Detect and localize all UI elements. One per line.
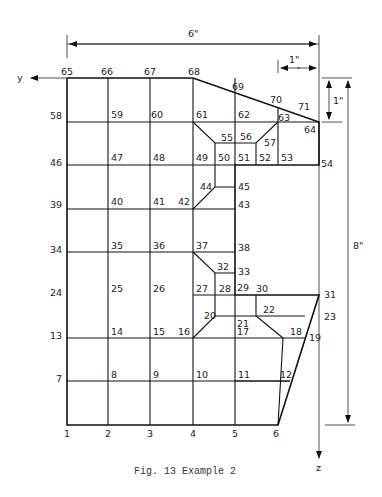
node-label: 7 bbox=[56, 373, 62, 384]
node-label: 11 bbox=[238, 369, 250, 380]
node-label: 21 bbox=[237, 318, 249, 329]
node-label: 37 bbox=[196, 240, 208, 251]
node-label: 42 bbox=[178, 196, 190, 207]
node-label: 41 bbox=[153, 196, 165, 207]
node-label: 55 bbox=[221, 132, 233, 143]
node-label: 56 bbox=[240, 131, 252, 142]
dimension-label-top-offset: 1" bbox=[333, 95, 343, 106]
node-label: 26 bbox=[153, 283, 165, 294]
node-label: 63 bbox=[278, 112, 290, 123]
node-label: 53 bbox=[281, 152, 293, 163]
dimension-right-offset-1in: 1" bbox=[278, 54, 316, 73]
node-label: 36 bbox=[153, 240, 165, 251]
node-label: 5 bbox=[232, 428, 238, 439]
node-label: 16 bbox=[178, 326, 190, 337]
node-label: 4 bbox=[190, 428, 196, 439]
node-label: 34 bbox=[50, 244, 62, 255]
node-label: 71 bbox=[298, 101, 310, 112]
node-label: 18 bbox=[290, 326, 302, 337]
node-label: 47 bbox=[111, 152, 123, 163]
node-label: 29 bbox=[237, 282, 249, 293]
node-label: 43 bbox=[238, 199, 250, 210]
node-label: 35 bbox=[111, 240, 123, 251]
node-label: 24 bbox=[50, 287, 62, 298]
y-axis: y bbox=[17, 72, 67, 83]
node-label: 12 bbox=[280, 369, 292, 380]
node-label: 13 bbox=[50, 330, 62, 341]
node-label: 48 bbox=[153, 152, 165, 163]
node-label: 65 bbox=[61, 66, 73, 77]
node-label: 49 bbox=[196, 152, 208, 163]
node-label: 15 bbox=[153, 326, 165, 337]
node-label: 46 bbox=[50, 157, 62, 168]
node-label: 69 bbox=[232, 81, 244, 92]
node-label: 33 bbox=[238, 266, 250, 277]
dimension-label-width: 6" bbox=[188, 28, 198, 39]
y-axis-label: y bbox=[17, 72, 23, 83]
node-label: 59 bbox=[111, 109, 123, 120]
node-label: 50 bbox=[218, 152, 230, 163]
node-label: 27 bbox=[196, 283, 208, 294]
node-label: 52 bbox=[259, 152, 271, 163]
node-label: 25 bbox=[111, 283, 123, 294]
node-label: 23 bbox=[324, 311, 336, 322]
node-label: 3 bbox=[147, 428, 153, 439]
node-label: 9 bbox=[153, 369, 159, 380]
node-label: 6 bbox=[273, 428, 279, 439]
node-label: 45 bbox=[238, 181, 250, 192]
node-label: 40 bbox=[111, 196, 123, 207]
node-label: 67 bbox=[144, 66, 156, 77]
node-label: 14 bbox=[111, 326, 123, 337]
node-label: 38 bbox=[238, 242, 250, 253]
node-label: 10 bbox=[196, 369, 208, 380]
node-label: 32 bbox=[217, 261, 229, 272]
node-label: 64 bbox=[304, 124, 316, 135]
dimension-height-8in: 8" bbox=[325, 81, 363, 425]
node-label: 66 bbox=[101, 66, 113, 77]
node-label: 8 bbox=[111, 369, 117, 380]
node-label: 54 bbox=[321, 158, 333, 169]
dimension-label-right-offset: 1" bbox=[289, 54, 299, 65]
finite-element-mesh-diagram: 6" 1" 1" 8" y z bbox=[0, 0, 382, 497]
dimension-label-height: 8" bbox=[353, 240, 363, 251]
node-label: 70 bbox=[270, 94, 282, 105]
node-label: 22 bbox=[263, 304, 275, 315]
node-label: 68 bbox=[188, 66, 200, 77]
node-label: 1 bbox=[64, 428, 70, 439]
figure-caption: Fig. 13 Example 2 bbox=[134, 466, 236, 477]
node-label: 60 bbox=[151, 109, 163, 120]
node-label: 61 bbox=[196, 109, 208, 120]
node-label: 57 bbox=[264, 137, 276, 148]
node-label: 31 bbox=[324, 289, 336, 300]
node-label: 2 bbox=[105, 428, 111, 439]
node-label: 62 bbox=[238, 109, 250, 120]
node-label: 39 bbox=[50, 199, 62, 210]
node-label: 58 bbox=[50, 110, 62, 121]
node-label: 44 bbox=[200, 181, 212, 192]
node-label: 30 bbox=[256, 283, 268, 294]
z-axis-label: z bbox=[316, 462, 321, 473]
node-label: 28 bbox=[219, 283, 231, 294]
node-label: 20 bbox=[204, 310, 216, 321]
node-label: 19 bbox=[309, 332, 321, 343]
node-label: 51 bbox=[238, 152, 250, 163]
dimension-top-offset-1in: 1" bbox=[322, 78, 352, 122]
